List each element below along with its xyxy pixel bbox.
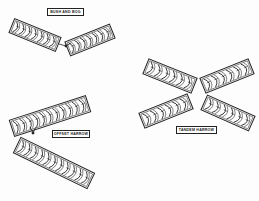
bush-and-bog-label: BUSH AND BOG: [47, 8, 84, 16]
disk-gang: [13, 137, 94, 188]
disk-gang: [143, 59, 197, 93]
bush-and-bog-group: [9, 19, 115, 56]
disk-gang: [65, 24, 115, 56]
disk-gang: [200, 59, 254, 93]
offset-harrow-group: [9, 96, 94, 189]
harrow-diagram: BUSH AND BOG OFFSET HARROW TANDEM HARROW: [0, 0, 259, 201]
disk-gang: [9, 19, 61, 52]
disk-gang: [139, 94, 193, 128]
harrow-drawing: [0, 0, 259, 201]
tandem-harrow-label: TANDEM HARROW: [176, 126, 217, 134]
tandem-harrow-group: [139, 59, 255, 131]
offset-harrow-label: OFFSET HARROW: [52, 130, 90, 138]
